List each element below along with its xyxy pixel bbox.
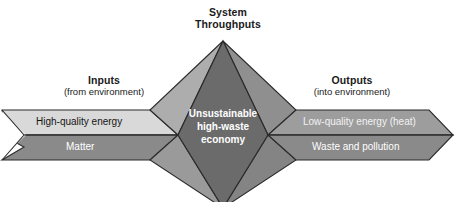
header-inputs-title: Inputs	[44, 74, 164, 86]
core-diamond-label-line-2: high-waste	[181, 121, 265, 134]
header-inputs: Inputs (from environment)	[44, 74, 164, 98]
core-diamond-label-line-3: economy	[181, 134, 265, 147]
core-diamond-label: Unsustainable high-waste economy	[181, 108, 265, 146]
header-inputs-subtitle: (from environment)	[44, 86, 164, 97]
input-band-matter-label: Matter	[66, 142, 94, 152]
core-diamond-label-line-1: Unsustainable	[181, 108, 265, 121]
output-band-low-quality-energy-label: Low-quality energy (heat)	[303, 117, 416, 127]
header-outputs: Outputs (into environment)	[290, 74, 414, 98]
header-system-throughputs-title: System	[168, 6, 288, 18]
header-system-throughputs-subtitle: Throughputs	[168, 18, 288, 30]
input-band-high-quality-energy-label: High-quality energy	[36, 117, 122, 127]
header-outputs-subtitle: (into environment)	[290, 86, 414, 97]
output-band-waste-and-pollution-label: Waste and pollution	[312, 142, 399, 152]
header-system-throughputs: System Throughputs	[168, 6, 288, 31]
system-diagram: System Throughputs Inputs (from environm…	[0, 0, 457, 202]
header-outputs-title: Outputs	[290, 74, 414, 86]
